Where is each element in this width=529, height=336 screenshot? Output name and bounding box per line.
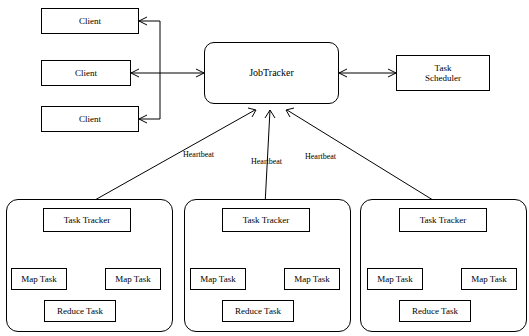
node-client-3-label: Client: [79, 114, 101, 124]
node-map-task-3a-label: Map Task: [377, 274, 412, 284]
node-map-task-2a-label: Map Task: [200, 274, 235, 284]
edge-label-heartbeat-2: Heartbeat: [251, 157, 282, 166]
node-jobtracker[interactable]: JobTracker: [204, 42, 339, 104]
wire-client3-bus: [139, 73, 160, 119]
node-map-task-1a-label: Map Task: [21, 274, 56, 284]
node-client-1-label: Client: [79, 16, 101, 26]
node-reduce-task-3[interactable]: Reduce Task: [399, 300, 471, 322]
node-task-tracker-3-label: Task Tracker: [420, 215, 467, 225]
node-client-1[interactable]: Client: [41, 8, 139, 34]
node-reduce-task-3-label: Reduce Task: [412, 306, 458, 316]
node-reduce-task-1-label: Reduce Task: [57, 306, 103, 316]
node-map-task-3a[interactable]: Map Task: [367, 268, 423, 290]
node-reduce-task-2[interactable]: Reduce Task: [222, 300, 294, 322]
node-task-scheduler-label: Task Scheduler: [425, 63, 461, 84]
node-client-3[interactable]: Client: [41, 106, 139, 132]
node-map-task-3b[interactable]: Map Task: [461, 268, 517, 290]
node-map-task-1a[interactable]: Map Task: [11, 268, 67, 290]
node-map-task-2b[interactable]: Map Task: [284, 268, 340, 290]
edge-label-heartbeat-3: Heartbeat: [305, 152, 336, 161]
node-reduce-task-2-label: Reduce Task: [235, 306, 281, 316]
node-reduce-task-1[interactable]: Reduce Task: [44, 300, 116, 322]
edge-label-heartbeat-1: Heartbeat: [183, 150, 214, 159]
node-map-task-3b-label: Map Task: [471, 274, 506, 284]
arrowhead-heartbeat-1: [248, 108, 256, 117]
node-client-2[interactable]: Client: [41, 60, 131, 86]
node-jobtracker-label: JobTracker: [249, 67, 294, 79]
node-task-tracker-3[interactable]: Task Tracker: [399, 208, 487, 232]
node-map-task-1b-label: Map Task: [115, 274, 150, 284]
node-map-task-1b[interactable]: Map Task: [105, 268, 161, 290]
node-map-task-2b-label: Map Task: [294, 274, 329, 284]
wire-client1-bus: [139, 21, 160, 73]
node-task-tracker-1-label: Task Tracker: [64, 215, 111, 225]
node-task-scheduler[interactable]: Task Scheduler: [396, 55, 490, 91]
node-client-2-label: Client: [75, 68, 97, 78]
node-map-task-2a[interactable]: Map Task: [190, 268, 246, 290]
node-task-tracker-2-label: Task Tracker: [243, 215, 290, 225]
diagram-canvas: Client Client Client JobTracker Task Sch…: [0, 0, 529, 336]
node-task-tracker-2[interactable]: Task Tracker: [222, 208, 310, 232]
node-task-tracker-1[interactable]: Task Tracker: [43, 208, 131, 232]
arrowhead-heartbeat-3: [286, 108, 294, 117]
